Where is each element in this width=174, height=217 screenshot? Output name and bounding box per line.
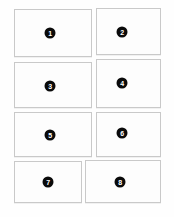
panel-4[interactable] — [96, 59, 161, 108]
panel-number-badge-5: 5 — [45, 130, 56, 141]
panel-number-badge-8: 8 — [115, 177, 126, 188]
panel-number-badge-3: 3 — [45, 81, 56, 92]
panel-4-content-area — [97, 60, 160, 107]
panel-number-badge-6: 6 — [117, 128, 128, 139]
panel-6-content-area — [97, 113, 160, 156]
panel-number-badge-4: 4 — [117, 78, 128, 89]
panel-number-badge-7: 7 — [43, 177, 54, 188]
panel-2-content-area — [97, 9, 160, 54]
panel-2[interactable] — [96, 8, 161, 55]
panel-number-badge-2: 2 — [117, 27, 128, 38]
panel-grid-canvas: 12345678 — [0, 0, 174, 217]
panel-6[interactable] — [96, 112, 161, 157]
panel-number-badge-1: 1 — [45, 28, 56, 39]
